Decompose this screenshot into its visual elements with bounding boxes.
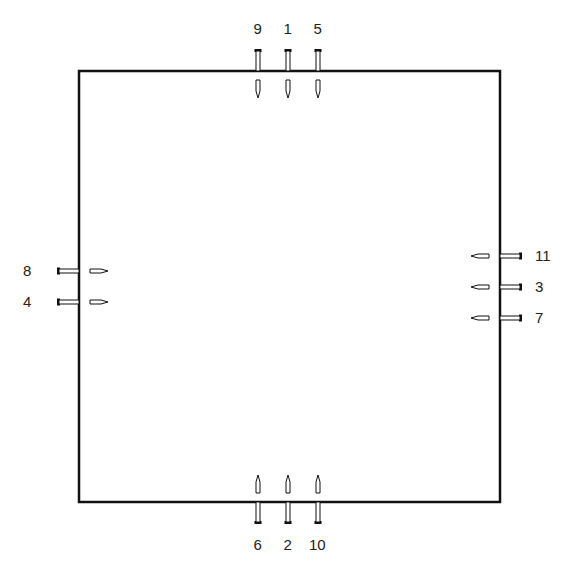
- nail-label: 4: [23, 294, 31, 309]
- nail-label: 7: [535, 310, 543, 325]
- nail-board-diagram: [0, 0, 572, 575]
- nail-icon: [471, 284, 522, 291]
- nail-icon: [285, 49, 292, 98]
- nail-icon: [255, 475, 262, 524]
- nail-icon: [285, 475, 292, 524]
- nail-label: 5: [314, 21, 322, 36]
- nail-label: 2: [284, 537, 292, 552]
- nail-icon: [57, 268, 108, 275]
- nail-icon: [471, 315, 522, 322]
- nail-label: 11: [535, 248, 551, 263]
- nail-label: 6: [254, 537, 262, 552]
- nail-label: 10: [309, 537, 326, 552]
- nail-label: 1: [284, 21, 292, 36]
- nail-icon: [315, 475, 322, 524]
- nail-icon: [57, 299, 108, 306]
- nail-icon: [255, 49, 262, 98]
- board-square: [79, 71, 500, 502]
- nail-label: 8: [23, 263, 31, 278]
- nail-icon: [471, 253, 522, 260]
- nail-label: 9: [254, 21, 262, 36]
- nail-icon: [315, 49, 322, 98]
- nail-label: 3: [535, 279, 543, 294]
